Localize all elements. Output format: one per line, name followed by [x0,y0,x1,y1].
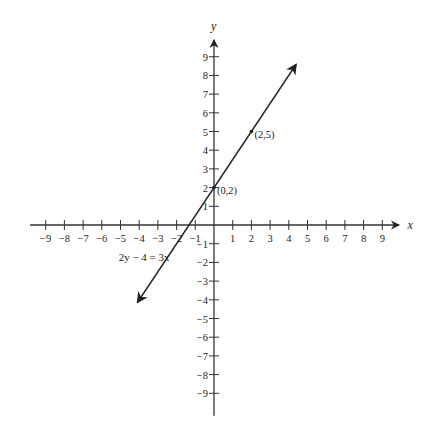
point-marker [250,130,254,134]
line-series [137,64,296,302]
y-tick-label: −4 [197,295,209,306]
point-marker [212,186,216,190]
y-tick-label: 3 [203,164,208,175]
x-tick-label: −5 [115,233,126,244]
x-tick-label: 5 [305,233,310,244]
y-tick-label: 6 [203,108,208,119]
y-tick-label: −3 [197,276,208,287]
x-tick-label: 6 [324,233,329,244]
line-2y-4-3x [137,64,296,302]
x-tick-label: −7 [78,233,89,244]
x-tick-label: 3 [267,233,272,244]
y-tick-label: 9 [203,52,208,63]
x-tick-label: 2 [249,233,254,244]
x-tick-label: −9 [40,233,51,244]
y-tick-label: −7 [197,351,208,362]
y-tick-label: −6 [197,332,208,343]
coordinate-plane: −9−8−7−6−5−4−3−2−1123456789987654321−1−2… [0,0,432,444]
x-tick-label: 7 [342,233,347,244]
y-tick-label: 8 [203,70,208,81]
y-tick-label: −1 [197,239,208,250]
y-tick-label: 5 [203,127,208,138]
y-tick-label: 2 [203,183,208,194]
y-tick-label: −8 [197,370,208,381]
y-tick-label: −9 [197,388,208,399]
axes [30,40,399,416]
y-tick-label: 7 [203,89,208,100]
x-tick-label: −8 [59,233,70,244]
point-label: (2,5) [254,129,275,141]
x-tick-label: 9 [380,233,385,244]
x-tick-label: 1 [230,233,235,244]
x-axis-label: x [407,218,414,232]
x-tick-label: −4 [134,233,146,244]
y-tick-label: −5 [197,314,208,325]
x-tick-label: −6 [96,233,107,244]
y-axis-label: y [210,19,217,33]
x-tick-label: 4 [286,233,292,244]
x-tick-label: −3 [152,233,163,244]
y-tick-label: 4 [203,145,209,156]
point-label: (0,2) [217,185,238,197]
y-tick-label: −2 [197,257,208,268]
x-tick-label: 8 [361,233,366,244]
equation-label: 2y − 4 = 3x [119,251,170,263]
labeled-points: (0,2)(2,5) [212,129,275,197]
